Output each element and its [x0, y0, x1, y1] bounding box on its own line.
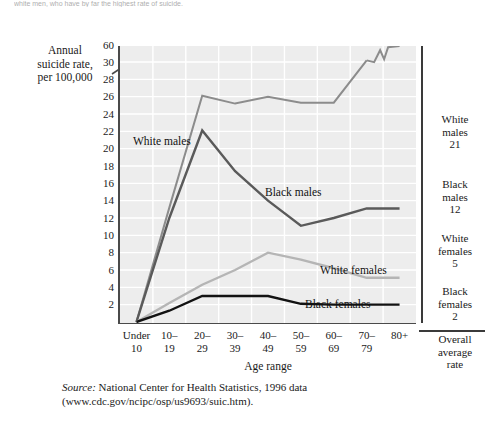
y-tick-label-top: 60 — [88, 40, 114, 51]
x-tick-line2: 19 — [164, 342, 175, 354]
y-tick-label: 18 — [88, 161, 114, 172]
x-tick-line1: 40– — [260, 329, 277, 341]
y-tick-label: 8 — [88, 247, 114, 258]
gridlines — [120, 46, 416, 323]
cutoff-body-text: white men, who have by far the highest r… — [14, 0, 314, 7]
series-label: Black females — [305, 298, 370, 310]
y-tick-label: 10 — [88, 230, 114, 241]
legend-item-line1: White — [442, 232, 469, 244]
legend-item-line1: Black — [442, 285, 468, 297]
series-label: White males — [133, 135, 191, 147]
series-label: White females — [320, 264, 387, 276]
legend-item-value: 21 — [424, 138, 486, 151]
source-label: Source: — [62, 381, 96, 393]
legend-item-line2: females — [438, 298, 472, 310]
series-label: Black males — [265, 186, 322, 198]
legend-item-line2: females — [438, 245, 472, 257]
legend-divider-vertical — [421, 46, 423, 323]
legend-item-line2: males — [442, 126, 468, 138]
x-tick-line2: 29 — [197, 342, 208, 354]
x-tick-line1: 10– — [161, 329, 178, 341]
y-tick-label: 2 — [88, 299, 114, 310]
legend-item: Blackfemales2 — [424, 285, 486, 323]
y-tick-label: 14 — [88, 195, 114, 206]
legend-item: Blackmales12 — [424, 178, 486, 216]
figure-panel: white men, who have by far the highest r… — [0, 0, 497, 425]
legend-footer-line1: Overall — [439, 333, 472, 345]
legend-item-line1: Black — [442, 178, 468, 190]
y-tick-label: 20 — [88, 143, 114, 154]
x-axis-title: Age range — [120, 360, 416, 372]
legend-item: Whitemales21 — [424, 113, 486, 151]
legend-item-line2: males — [442, 191, 468, 203]
x-tick-line2: 59 — [295, 342, 306, 354]
x-tick-label: 80+ — [377, 329, 423, 342]
source-note: Source: National Center for Health Stati… — [62, 380, 462, 408]
x-tick-line1: 50– — [293, 329, 310, 341]
x-tick-line2: 39 — [230, 342, 241, 354]
x-tick-line1: 20– — [194, 329, 211, 341]
legend-divider-horizontal — [419, 330, 485, 332]
legend-item-line1: White — [442, 113, 469, 125]
x-tick-line1: 70– — [358, 329, 375, 341]
x-tick-line1: 60– — [326, 329, 343, 341]
legend-footer: Overall average rate — [424, 333, 486, 371]
x-tick-line1: 80+ — [391, 329, 408, 341]
y-tick-label: 12 — [88, 213, 114, 224]
legend-item: Whitefemales5 — [424, 232, 486, 270]
legend-footer-line2: average — [438, 346, 472, 358]
y-tick-label: 6 — [88, 265, 114, 276]
source-url: (www.cdc.gov/ncipc/osp/us9693/suic.htm). — [62, 395, 253, 407]
legend-footer-line3: rate — [447, 358, 463, 370]
x-tick-line2: 79 — [361, 342, 372, 354]
y-tick-label: 4 — [88, 282, 114, 293]
legend-item-value: 2 — [424, 310, 486, 323]
source-text: National Center for Health Statistics, 1… — [96, 381, 307, 393]
x-tick-line2: 49 — [263, 342, 274, 354]
y-tick-label: 26 — [88, 91, 114, 102]
series-line — [136, 130, 399, 322]
legend-item-value: 5 — [424, 257, 486, 270]
legend-item-value: 12 — [424, 203, 486, 216]
plot-area — [120, 46, 416, 323]
y-tick-label: 16 — [88, 178, 114, 189]
y-tick-label: 22 — [88, 126, 114, 137]
x-tick-line2: 69 — [328, 342, 339, 354]
series-canvas — [120, 46, 416, 323]
y-tick-label: 24 — [88, 109, 114, 120]
x-tick-line1: 30– — [227, 329, 244, 341]
x-tick-line2: 10 — [131, 342, 142, 354]
